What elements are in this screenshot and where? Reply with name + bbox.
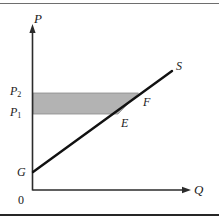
x-axis-arrowhead [182,187,191,193]
x-axis-label: Q [194,183,203,196]
origin-label: 0 [18,194,24,206]
supply-curve-label: S [176,60,182,72]
figure-container: P Q S E F G P2 P1 0 [0,0,219,223]
price-tick-label-p1: P1 [10,106,21,118]
point-label-f: F [143,96,150,108]
point-label-e: E [121,117,128,129]
price-tick-sub-p1: 1 [17,111,21,120]
bottom-divider-rule [0,214,219,216]
shaded-price-band [33,93,139,114]
supply-curve-line [33,71,172,172]
price-tick-sub-p2: 2 [17,90,21,99]
y-axis-label: P [34,12,42,25]
supply-curve-plot [0,0,219,223]
price-tick-label-p2: P2 [10,85,21,97]
supply-intercept-label-g: G [17,166,26,178]
